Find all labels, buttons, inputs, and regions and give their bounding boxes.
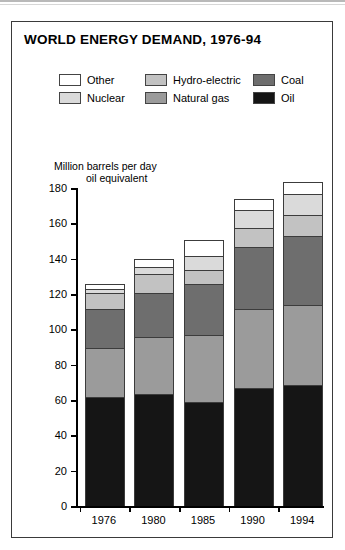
y-axis-tick [71,223,76,225]
chart-page: WORLD ENERGY DEMAND, 1976-94 OtherHydro-… [0,0,345,550]
legend-label: Hydro-electric [173,74,241,86]
bar-column[interactable] [234,199,274,506]
legend-swatch-icon [145,92,167,104]
bar-segment[interactable] [284,183,322,195]
bar-segment[interactable] [86,349,124,398]
page-top-rule [0,0,345,2]
bar-segment[interactable] [284,237,322,306]
y-axis-tick [71,506,76,508]
bar-segment[interactable] [235,200,273,211]
y-axis-line [76,188,78,506]
x-axis-tick-label: 1980 [141,514,165,526]
bar-segment[interactable] [284,195,322,216]
y-axis-tick-label: 180 [49,183,67,193]
y-axis-tick [71,259,76,261]
x-axis-tick-label: 1990 [240,514,264,526]
y-axis-tick [71,329,76,331]
y-axis-caption: Million barrels per day oil equivalent [54,160,157,184]
bar-column[interactable] [283,182,323,506]
bar-segment[interactable] [185,271,223,285]
y-axis-tick-label: 100 [49,324,67,334]
chart-frame: WORLD ENERGY DEMAND, 1976-94 OtherHydro-… [11,21,333,538]
x-axis-tick [229,506,231,512]
bar-segment[interactable] [185,257,223,271]
x-axis-tick [80,506,82,512]
x-axis-tick [179,506,181,512]
legend-label: Oil [281,92,294,104]
legend-label: Nuclear [87,92,125,104]
y-axis-caption-line1: Million barrels per day [54,160,157,172]
y-axis-tick [71,188,76,190]
y-axis-tick [71,365,76,367]
bar-segment[interactable] [284,386,322,506]
legend-item: Nuclear [59,92,145,104]
plot-area: 0204060801001201401601801976198019851990… [76,188,324,506]
chart-title: WORLD ENERGY DEMAND, 1976-94 [24,32,261,47]
legend-label: Coal [281,74,304,86]
bar-column[interactable] [85,284,125,506]
bar-segment[interactable] [235,211,273,229]
y-axis-tick-label: 0 [61,501,67,511]
y-axis-tick [71,435,76,437]
legend-swatch-icon [253,74,275,86]
legend-item: Hydro-electric [145,74,253,86]
page-top-rule-secondary [0,4,345,5]
bar-segment[interactable] [135,294,173,338]
legend-swatch-icon [145,74,167,86]
bar-segment[interactable] [135,268,173,275]
bar-segment[interactable] [86,294,124,310]
bar-segment[interactable] [135,275,173,294]
legend-label: Other [87,74,115,86]
x-axis-tick-label: 1976 [92,514,116,526]
y-axis-tick [71,400,76,402]
y-axis-tick-label: 40 [55,430,67,440]
bar-segment[interactable] [135,260,173,267]
chart-legend: OtherHydro-electricCoalNuclearNatural ga… [59,71,327,107]
bar-segment[interactable] [284,306,322,386]
legend-swatch-icon [59,74,81,86]
x-axis-tick [129,506,131,512]
bar-segment[interactable] [235,229,273,248]
bar-segment[interactable] [185,336,223,403]
bar-segment[interactable] [86,398,124,506]
y-axis-caption-line2: oil equivalent [86,172,157,184]
bar-segment[interactable] [235,310,273,390]
x-axis-tick [278,506,280,512]
bar-column[interactable] [184,240,224,506]
bar-segment[interactable] [235,248,273,310]
x-axis-tick-label: 1985 [191,514,215,526]
bar-segment[interactable] [135,395,173,506]
bar-segment[interactable] [185,285,223,336]
y-axis-tick-label: 80 [55,360,67,370]
legend-label: Natural gas [173,92,229,104]
y-axis-tick-label: 120 [49,289,67,299]
legend-swatch-icon [59,92,81,104]
legend-swatch-icon [253,92,275,104]
bar-segment[interactable] [135,338,173,395]
x-axis-line [76,506,324,508]
bar-segment[interactable] [235,389,273,506]
bar-segment[interactable] [86,310,124,349]
y-axis-tick-label: 60 [55,395,67,405]
legend-item: Other [59,74,145,86]
y-axis-tick [71,471,76,473]
bar-column[interactable] [134,259,174,506]
y-axis-tick-label: 20 [55,466,67,476]
legend-item: Natural gas [145,92,253,104]
bar-segment[interactable] [284,216,322,237]
legend-item: Coal [253,74,323,86]
bar-segment[interactable] [185,403,223,505]
legend-item: Oil [253,92,323,104]
bar-segment[interactable] [185,241,223,257]
x-axis-tick-label: 1994 [290,514,314,526]
y-axis-tick-label: 160 [49,218,67,228]
y-axis-tick [71,294,76,296]
y-axis-tick-label: 140 [49,254,67,264]
